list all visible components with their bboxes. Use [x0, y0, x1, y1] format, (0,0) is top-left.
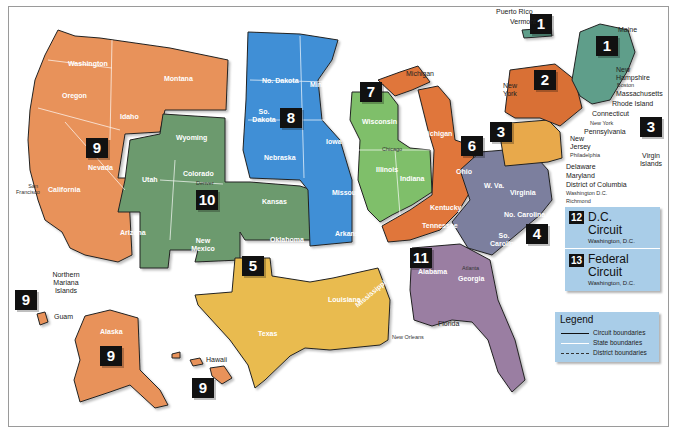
state-label-alabama: Alabama — [418, 268, 447, 276]
white-line-icon — [561, 343, 589, 344]
city-atlanta: Atlanta — [462, 265, 479, 271]
label-michigan-upper: Michigan — [406, 70, 434, 78]
dc-circuit-location: Washington, D.C. — [588, 238, 635, 244]
circuit-badge-6: 6 — [461, 136, 483, 156]
state-label-arkansas: Arkansas — [335, 230, 367, 238]
label-new-hampshire: New Hampshire — [616, 66, 656, 82]
state-label-wisconsin: Wisconsin — [362, 118, 397, 126]
circuit-badge-5: 5 — [242, 256, 264, 276]
city-boston: Boston — [617, 82, 634, 88]
state-label-kentucky: Kentucky — [430, 204, 462, 212]
state-label-michigan: Michigan — [422, 130, 452, 138]
legend-item-district: District boundaries — [561, 349, 657, 357]
state-label-washington: Washington — [68, 60, 108, 68]
state-label-w-va: W. Va. — [484, 182, 504, 190]
circuit-7-region — [350, 92, 432, 222]
state-label-idaho: Idaho — [120, 113, 139, 121]
state-label-wyoming: Wyoming — [176, 134, 207, 142]
state-label-missouri: Missouri — [332, 189, 361, 197]
label-district-of-columbia: District of Columbia — [566, 181, 627, 189]
city-washington-dc: Washington D.C. — [566, 190, 607, 196]
state-label-iowa: Iowa — [326, 138, 342, 146]
state-label-so-dakota: So. Dakota — [250, 108, 278, 124]
circuit-badge-9-alaska: 9 — [100, 346, 122, 366]
label-connecticut: Connecticut — [592, 110, 629, 118]
circuit-badge-1: 1 — [596, 36, 618, 56]
state-label-kansas: Kansas — [262, 198, 287, 206]
circuit-badge-12: 12 — [569, 211, 584, 224]
legend-title: Legend — [560, 314, 593, 325]
solid-line-icon — [561, 333, 589, 334]
circuit-badge-13: 13 — [569, 254, 584, 267]
label-rhode-island: Rhode Island — [612, 100, 653, 108]
circuit-badge-9-hawaii: 9 — [192, 378, 214, 398]
label-new-jersey: New Jersey — [570, 135, 594, 151]
state-label-utah: Utah — [142, 176, 158, 184]
state-label-no-carolina: No. Carolina — [504, 211, 545, 219]
state-label-new-mexico: New Mexico — [190, 237, 216, 253]
label-vermont: Vermont — [510, 18, 536, 26]
state-label-arizona: Arizona — [120, 229, 146, 237]
circuit-badge-9: 9 — [86, 138, 108, 158]
circuit-badge-2: 2 — [534, 70, 556, 90]
legend-item-state: State boundaries — [561, 339, 657, 347]
state-label-montana: Montana — [164, 75, 193, 83]
circuit-badge-10: 10 — [196, 190, 218, 210]
federal-circuit-location: Washington, D.C. — [588, 280, 635, 286]
panel-divider — [565, 248, 660, 249]
state-label-nevada: Nevada — [88, 164, 113, 172]
state-label-minnesota: Minnesota — [310, 81, 345, 89]
legend-item-circuit: Circuit boundaries — [561, 329, 657, 337]
dc-circuit-name-line2: Circuit — [588, 224, 622, 236]
circuit-badge-7: 7 — [360, 82, 382, 102]
state-label-georgia: Georgia — [458, 275, 484, 283]
circuit-badge-4: 4 — [526, 224, 548, 244]
state-label-so-carolina: So. Carolina — [490, 232, 518, 248]
special-circuits-panel: 12 D.C. Circuit Washington, D.C. 13 Fede… — [565, 207, 660, 291]
label-massachusetts: Massachusetts — [616, 90, 663, 98]
circuit-badge-3: 3 — [490, 122, 512, 142]
dashed-line-icon — [561, 353, 589, 354]
state-label-no-dakota: No. Dakota — [262, 77, 299, 85]
circuit-badge-11: 11 — [410, 248, 432, 268]
label-florida: Florida — [438, 320, 459, 328]
label-maryland: Maryland — [566, 172, 595, 180]
state-label-illinois: Illinois — [376, 166, 398, 174]
state-label-alaska: Alaska — [100, 328, 123, 336]
circuit-badge-8: 8 — [280, 108, 302, 128]
label-new-york: New York — [500, 82, 520, 98]
city-denver: Denver — [196, 180, 214, 186]
label-maine: Maine — [618, 26, 637, 34]
label-puerto-rico: Puerto Rico — [496, 8, 533, 16]
dc-circuit-name-line1: D.C. — [588, 211, 612, 223]
circuit-badge-3-vi: 3 — [640, 117, 662, 137]
label-northern-mariana: Northern Mariana Islands — [52, 271, 80, 295]
city-san-francisco: San Francisco — [16, 183, 38, 195]
federal-circuit-name-line1: Federal — [588, 253, 629, 265]
circuit-badge-9-guam: 9 — [15, 290, 37, 310]
city-richmond: Richmond — [566, 198, 591, 204]
label-guam: Guam — [54, 313, 73, 321]
city-chicago: Chicago — [382, 146, 402, 152]
state-label-oklahoma: Oklahoma — [270, 236, 304, 244]
city-new-york: New York — [590, 120, 613, 126]
label-hawaii: Hawaii — [206, 356, 227, 364]
state-label-virginia: Virginia — [510, 189, 536, 197]
guam-shape — [37, 312, 48, 325]
state-label-tennessee: Tennessee — [422, 222, 458, 230]
state-label-texas: Texas — [258, 330, 277, 338]
state-label-colorado: Colorado — [183, 170, 214, 178]
federal-circuit-name-line2: Circuit — [588, 266, 622, 278]
state-label-ohio: Ohio — [456, 168, 472, 176]
legend: Legend Circuit boundaries State boundari… — [555, 312, 659, 362]
state-label-indiana: Indiana — [400, 175, 425, 183]
city-new-orleans: New Orleans — [392, 334, 424, 340]
state-label-nebraska: Nebraska — [264, 154, 296, 162]
city-philadelphia: Philadelphia — [570, 152, 600, 158]
label-virgin-islands: Virgin Islands — [636, 152, 666, 168]
label-delaware: Delaware — [566, 163, 596, 171]
state-label-oregon: Oregon — [62, 92, 87, 100]
state-label-california: California — [48, 186, 80, 194]
